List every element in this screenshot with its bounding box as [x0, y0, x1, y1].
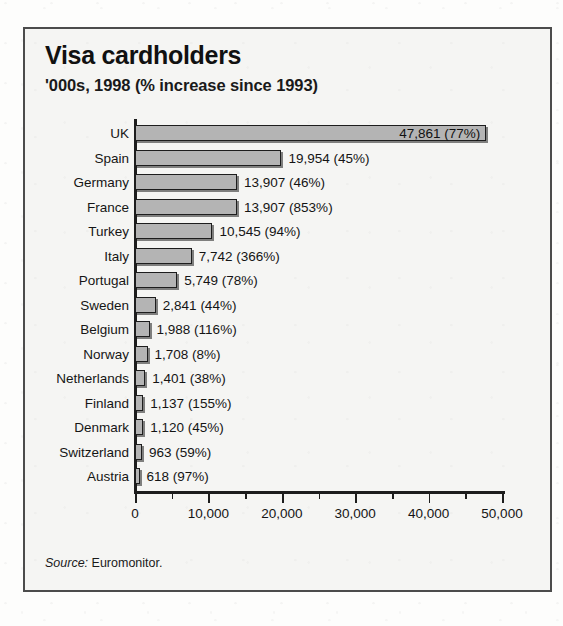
- bar: [135, 321, 150, 337]
- bar-value-label: 1,401 (38%): [152, 367, 226, 390]
- x-tick-label: 10,000: [188, 506, 229, 521]
- x-tick-major: [429, 494, 431, 503]
- bar-row: Italy7,742 (366%): [25, 245, 554, 270]
- bar-value-label: 7,742 (366%): [199, 245, 280, 268]
- bar-row: Denmark1,120 (45%): [25, 416, 554, 441]
- bar-value-label: 5,749 (78%): [184, 269, 258, 292]
- x-tick-major: [502, 494, 504, 503]
- bar-row: Finland1,137 (155%): [25, 392, 554, 417]
- x-tick-label: 30,000: [335, 506, 376, 521]
- x-tick-label: 40,000: [408, 506, 449, 521]
- bar-value-label: 10,545 (94%): [219, 220, 300, 243]
- bar: [135, 468, 140, 484]
- category-label: Germany: [25, 171, 135, 196]
- bar-row: Belgium1,988 (116%): [25, 318, 554, 343]
- source-label: Source:: [45, 556, 88, 570]
- category-label: Switzerland: [25, 441, 135, 466]
- bar: [135, 223, 212, 239]
- bar: [135, 346, 148, 362]
- bar-value-label: 13,907 (853%): [244, 196, 333, 219]
- bar: [135, 297, 156, 313]
- bar: [135, 419, 143, 435]
- figure-frame: Visa cardholders '000s, 1998 (% increase…: [23, 27, 552, 592]
- bar-value-label: 963 (59%): [149, 441, 211, 464]
- bar-row: Spain19,954 (45%): [25, 147, 554, 172]
- x-tick-major: [282, 494, 284, 503]
- category-label: Sweden: [25, 294, 135, 319]
- bar-row: UK47,861 (77%): [25, 122, 554, 147]
- category-label: Denmark: [25, 416, 135, 441]
- category-label: Turkey: [25, 220, 135, 245]
- bar-row: Norway1,708 (8%): [25, 343, 554, 368]
- bar-row: Switzerland963 (59%): [25, 441, 554, 466]
- source-note: Source: Euromonitor.: [45, 556, 162, 570]
- bar-value-label: 1,708 (8%): [155, 343, 221, 366]
- category-label: France: [25, 196, 135, 221]
- x-tick-minor: [392, 494, 394, 499]
- bar-value-label: 2,841 (44%): [163, 294, 237, 317]
- category-label: Portugal: [25, 269, 135, 294]
- bar: [135, 199, 237, 215]
- category-label: Italy: [25, 245, 135, 270]
- source-value: Euromonitor.: [88, 556, 162, 570]
- bar-value-label: 47,861 (77%): [399, 122, 480, 145]
- x-tick-major: [135, 494, 137, 503]
- bar: [135, 272, 177, 288]
- bar-row: Portugal5,749 (78%): [25, 269, 554, 294]
- x-tick-major: [355, 494, 357, 503]
- bar-value-label: 1,120 (45%): [150, 416, 224, 439]
- bar: [135, 395, 143, 411]
- category-label: Austria: [25, 465, 135, 490]
- bar-value-label: 1,137 (155%): [150, 392, 231, 415]
- bar-value-label: 19,954 (45%): [288, 147, 369, 170]
- bar-value-label: 13,907 (46%): [244, 171, 325, 194]
- bar: [135, 444, 142, 460]
- x-tick-minor: [172, 494, 174, 499]
- bar-row: Sweden2,841 (44%): [25, 294, 554, 319]
- category-label: UK: [25, 122, 135, 147]
- bar-value-label: 1,988 (116%): [157, 318, 237, 341]
- category-label: Finland: [25, 392, 135, 417]
- x-tick-minor: [245, 494, 247, 499]
- category-label: Spain: [25, 147, 135, 172]
- bar: [135, 370, 145, 386]
- category-label: Norway: [25, 343, 135, 368]
- bar: [135, 150, 281, 166]
- x-tick-label: 0: [131, 506, 139, 521]
- scanned-page-background: Consumer transactions Euromonitor 1998 V…: [0, 0, 563, 626]
- x-tick-minor: [319, 494, 321, 499]
- bar-value-label: 618 (97%): [147, 465, 209, 488]
- category-label: Netherlands: [25, 367, 135, 392]
- x-tick-minor: [465, 494, 467, 499]
- category-label: Belgium: [25, 318, 135, 343]
- bar: [135, 174, 237, 190]
- bar: [135, 248, 192, 264]
- x-tick-label: 20,000: [261, 506, 302, 521]
- bar-chart-plot-area: UK47,861 (77%)Spain19,954 (45%)Germany13…: [25, 29, 554, 594]
- bar-row: Austria618 (97%): [25, 465, 554, 490]
- x-tick-major: [208, 494, 210, 503]
- bar-row: Netherlands1,401 (38%): [25, 367, 554, 392]
- bar-row: Germany13,907 (46%): [25, 171, 554, 196]
- bar-row: France13,907 (853%): [25, 196, 554, 221]
- bar-row: Turkey10,545 (94%): [25, 220, 554, 245]
- x-tick-label: 50,000: [481, 506, 522, 521]
